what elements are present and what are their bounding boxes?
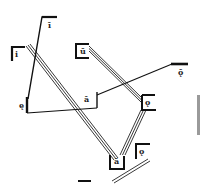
- node-label-e: ę: [19, 101, 24, 109]
- node-label-o-small: ǫ: [139, 147, 144, 155]
- node-label-i: i: [15, 50, 18, 58]
- diagram-canvas: [0, 0, 200, 185]
- node-ibar-corner: [28, 17, 57, 99]
- edge-gray-bar: [197, 95, 200, 135]
- node-label-o: ǫ: [145, 98, 150, 106]
- node-label-ibar: ī: [48, 21, 51, 29]
- node-label-obar: ǭ: [178, 68, 183, 76]
- node-i-bracket: [12, 47, 25, 61]
- node-label-u: ū: [80, 47, 86, 55]
- node-label-a-bottom: ā: [114, 157, 119, 165]
- edge-e-to-a: [27, 108, 97, 113]
- node-label-a: ā: [84, 95, 89, 103]
